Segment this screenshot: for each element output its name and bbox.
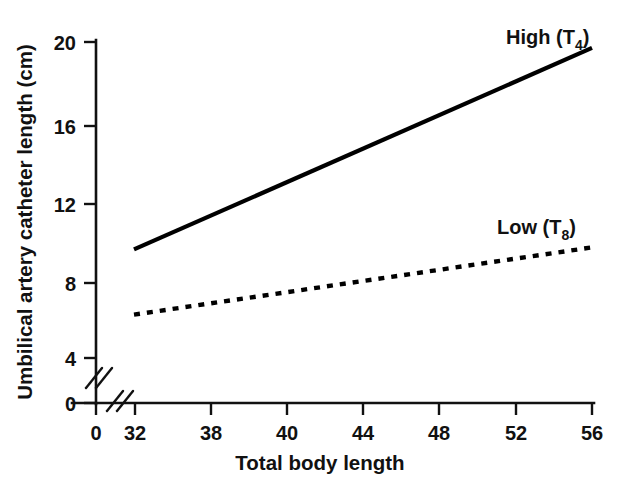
y-tick-marks — [84, 42, 96, 403]
x-tick-label-52: 52 — [505, 422, 527, 444]
y-tick-labels: 20 16 12 8 4 0 — [54, 32, 77, 415]
y-axis-title: Umbilical artery catheter length (cm) — [13, 44, 36, 399]
y-tick-label-16: 16 — [54, 116, 76, 138]
x-tick-label-48: 48 — [428, 422, 450, 444]
x-tick-label-44: 44 — [352, 422, 375, 444]
line-chart: 20 16 12 8 4 0 0 32 38 40 44 48 52 56 To… — [0, 0, 634, 483]
x-tick-label-40: 40 — [276, 422, 298, 444]
y-axis-break-icon — [86, 368, 112, 388]
x-tick-label-38: 38 — [200, 422, 222, 444]
series-label-high-t4: High (T4) — [506, 26, 589, 53]
x-tick-marks — [96, 403, 592, 415]
x-tick-label-56: 56 — [581, 422, 603, 444]
series-label-high-t4-close: ) — [583, 26, 590, 48]
series-label-high-t4-subscript: 4 — [575, 37, 583, 53]
y-tick-label-0: 0 — [65, 393, 76, 415]
y-tick-label-4: 4 — [65, 348, 77, 370]
series-label-low-t8: Low (T8) — [497, 216, 576, 243]
y-tick-label-12: 12 — [54, 194, 76, 216]
x-tick-label-0: 0 — [90, 422, 101, 444]
x-axis-title: Total body length — [235, 451, 404, 474]
y-tick-label-8: 8 — [65, 273, 76, 295]
x-tick-labels: 0 32 38 40 44 48 52 56 — [90, 422, 603, 444]
y-tick-label-20: 20 — [54, 32, 76, 54]
series-label-low-t8-text: Low (T — [497, 216, 561, 238]
chart-figure: 20 16 12 8 4 0 0 32 38 40 44 48 52 56 To… — [0, 0, 634, 483]
series-label-low-t8-close: ) — [569, 216, 576, 238]
x-tick-label-32: 32 — [124, 422, 146, 444]
x-axis-break-icon — [107, 391, 133, 411]
series-label-low-t8-subscript: 8 — [561, 227, 569, 243]
series-label-high-t4-text: High (T — [506, 26, 575, 48]
series-line-low-t8 — [134, 247, 592, 314]
